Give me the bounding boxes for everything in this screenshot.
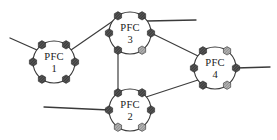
pfc4-port-top-right[interactable] (223, 47, 230, 55)
pfc2-port-top-left[interactable] (114, 89, 121, 97)
pfc3-port-left[interactable] (105, 29, 112, 37)
node-index-pfc3: 3 (127, 34, 132, 45)
node-label-pfc4: PFC (205, 57, 224, 68)
link-pfc3-pfc4 (151, 33, 198, 56)
ext-link-pfc1-upleft (10, 38, 37, 50)
pfc3-port-bottom-right[interactable] (138, 46, 145, 54)
pfc1-port-left[interactable] (29, 58, 36, 66)
pfc2-port-top-right[interactable] (138, 89, 145, 97)
node-index-pfc2: 2 (127, 111, 132, 122)
node-label-pfc2: PFC (120, 99, 139, 110)
pfc2-port-bottom-left[interactable] (114, 123, 121, 131)
network-diagram: PFC1PFC3PFC2PFC4 (0, 0, 277, 140)
ext-link-pfc2-left (44, 107, 109, 110)
node-label-pfc1: PFC (44, 51, 63, 62)
node-pfc4[interactable]: PFC4 (190, 47, 239, 90)
network-topology-svg: PFC1PFC3PFC2PFC4 (0, 0, 277, 140)
pfc1-port-top-left[interactable] (38, 41, 45, 49)
pfc3-port-bottom-left[interactable] (114, 46, 121, 54)
pfc4-port-right[interactable] (232, 64, 239, 72)
node-index-pfc1: 1 (51, 63, 56, 74)
pfc3-port-right[interactable] (147, 29, 154, 37)
pfc1-port-top-right[interactable] (62, 41, 69, 49)
pfc4-port-bottom-left[interactable] (199, 81, 206, 89)
pfc4-port-bottom-right[interactable] (223, 81, 230, 89)
node-index-pfc4: 4 (212, 69, 218, 80)
node-label-pfc3: PFC (120, 22, 139, 33)
ext-link-pfc3-right (147, 20, 196, 21)
link-pfc2-pfc4 (143, 80, 198, 98)
nodes-layer: PFC1PFC3PFC2PFC4 (29, 12, 239, 132)
pfc2-port-bottom-right[interactable] (138, 123, 145, 131)
node-pfc1[interactable]: PFC1 (29, 41, 78, 84)
pfc2-port-left[interactable] (105, 106, 112, 114)
pfc1-port-right[interactable] (71, 58, 78, 66)
ext-link-pfc4-right (236, 67, 270, 68)
pfc4-port-left[interactable] (190, 64, 197, 72)
node-pfc2[interactable]: PFC2 (105, 89, 154, 132)
pfc4-port-top-left[interactable] (199, 47, 206, 55)
pfc3-port-top-left[interactable] (114, 12, 121, 20)
pfc3-port-top-right[interactable] (138, 12, 145, 20)
pfc1-port-bottom-right[interactable] (62, 75, 69, 83)
pfc2-port-right[interactable] (147, 106, 154, 114)
node-pfc3[interactable]: PFC3 (105, 12, 154, 55)
pfc1-port-bottom-left[interactable] (38, 75, 45, 83)
